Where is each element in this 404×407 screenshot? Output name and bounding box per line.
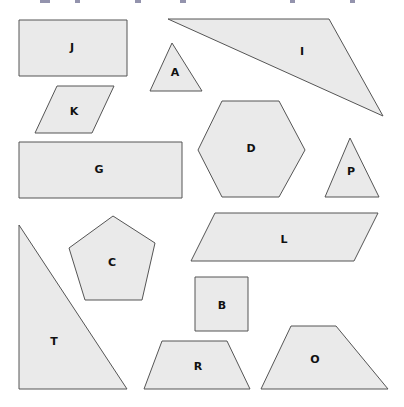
shape-label: B (218, 299, 226, 312)
shape-c-pentagon: C (69, 216, 155, 300)
trapezoid-polygon (261, 326, 388, 389)
shape-l-parallelogram: L (191, 213, 378, 261)
shape-b-square: B (195, 277, 248, 331)
shape-label: T (50, 335, 58, 348)
shape-o-trapezoid: O (261, 326, 388, 389)
shape-p-triangle: P (325, 138, 379, 197)
shape-a-triangle: A (150, 43, 202, 91)
shape-label: J (69, 41, 74, 54)
cropped-header-text (0, 0, 404, 4)
shape-label: K (70, 105, 79, 118)
shape-k-parallelogram: K (35, 86, 114, 133)
shape-d-hexagon: D (198, 101, 305, 197)
shape-g-rectangle: G (19, 142, 182, 198)
shape-label: L (280, 233, 287, 246)
shape-label: G (94, 163, 103, 176)
shapes-figure: JAIKGDPLCTBRO (0, 0, 404, 407)
shapes-canvas: JAIKGDPLCTBRO (0, 0, 404, 407)
shape-label: A (171, 66, 180, 79)
shape-label: P (347, 165, 355, 178)
shape-label: R (194, 360, 203, 373)
shape-j-rectangle: J (19, 20, 127, 76)
shape-label: D (246, 142, 255, 155)
shape-r-trapezoid: R (144, 341, 250, 389)
shape-label: C (108, 256, 116, 269)
shape-label: I (300, 45, 304, 58)
shape-label: O (310, 353, 319, 366)
